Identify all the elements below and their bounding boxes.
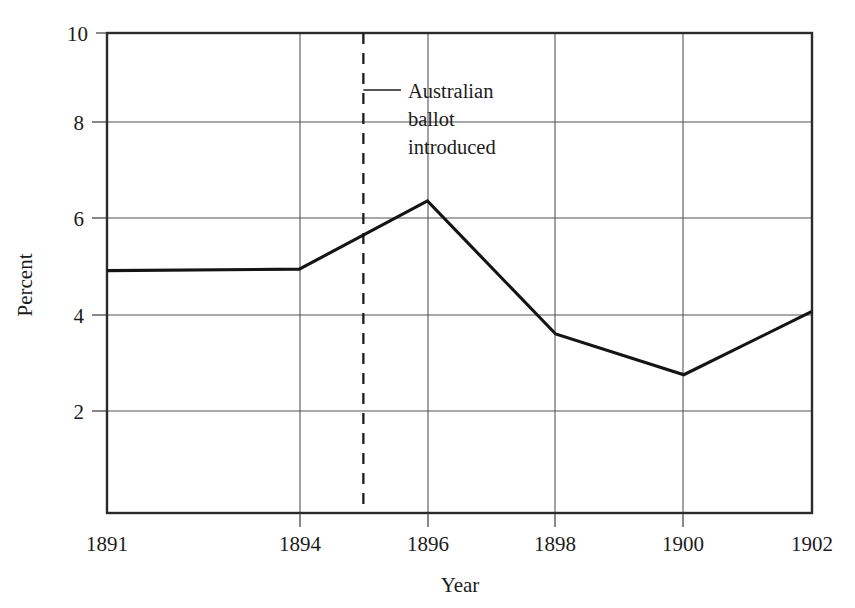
x-tick-label-1896: 1896	[407, 532, 449, 556]
horizontal-gridlines	[107, 122, 812, 411]
y-axis-title: Percent	[13, 253, 37, 316]
x-axis-title: Year	[441, 573, 480, 597]
annotation-line-1: Australian	[408, 80, 493, 102]
x-tickmarks	[300, 513, 683, 527]
y-tick-labels: 10 8 6 4 2	[67, 22, 88, 424]
x-tick-label-1898: 1898	[534, 532, 576, 556]
x-tick-labels: 1891 1894 1896 1898 1900 1902	[86, 532, 833, 556]
annotation-line-2: ballot	[408, 108, 455, 130]
percent-series-line	[107, 201, 812, 375]
x-tick-label-1894: 1894	[279, 532, 322, 556]
line-chart-figure: 10 8 6 4 2 1891 1894 1896 1898 1900 1902…	[0, 0, 855, 608]
annotation-label: Australian ballot introduced	[408, 80, 496, 158]
chart-canvas: 10 8 6 4 2 1891 1894 1896 1898 1900 1902…	[0, 0, 855, 608]
vertical-gridlines	[300, 33, 683, 513]
x-tick-label-1900: 1900	[662, 532, 704, 556]
y-tickmarks	[92, 33, 107, 411]
y-tick-label-10: 10	[67, 22, 88, 46]
y-tick-label-8: 8	[74, 111, 85, 135]
plot-frame	[107, 33, 812, 513]
y-tick-label-4: 4	[74, 304, 85, 328]
y-tick-label-6: 6	[74, 207, 85, 231]
y-tick-label-2: 2	[74, 400, 85, 424]
annotation-line-3: introduced	[408, 136, 496, 158]
x-tick-label-1891: 1891	[86, 532, 128, 556]
x-tick-label-1902: 1902	[791, 532, 833, 556]
